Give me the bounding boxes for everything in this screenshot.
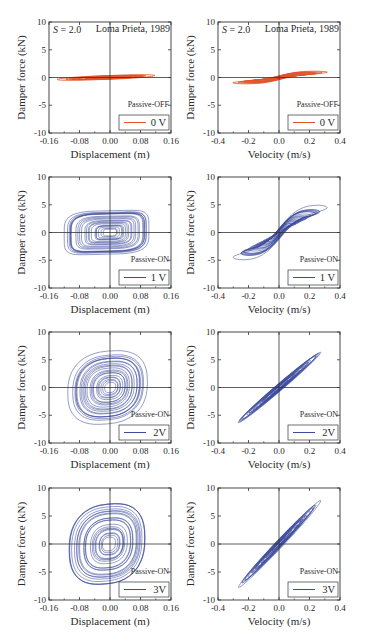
x-tick-label: 0.4	[334, 603, 346, 613]
y-tick-label: 10	[206, 483, 216, 493]
legend-label: 3V	[322, 584, 335, 595]
x-tick-label: -0.2	[241, 603, 255, 613]
y-axis-label: Damper force (kN)	[184, 502, 197, 587]
chart-panel-r4c2: -0.4-0.20.00.20.41050-5-10Velocity (m/s)…	[0, 0, 366, 641]
y-tick-label: 0	[211, 539, 216, 549]
legend: 3V	[288, 582, 338, 597]
y-tick-label: 5	[211, 511, 216, 521]
y-tick-label: -10	[203, 595, 215, 605]
x-tick-label: 0.0	[273, 603, 285, 613]
x-axis-label: Velocity (m/s)	[248, 615, 311, 628]
mode-label: Passive-ON	[300, 567, 338, 576]
x-tick-label: 0.2	[304, 603, 315, 613]
y-tick-label: -5	[208, 567, 216, 577]
